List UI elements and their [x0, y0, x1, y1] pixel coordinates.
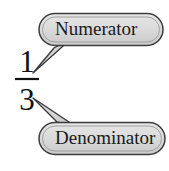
fraction: 1 3 — [15, 44, 39, 117]
fraction-denominator: 3 — [19, 82, 35, 117]
fraction-parts-diagram: Numerator Denominator 1 3 — [0, 0, 169, 171]
diagram-canvas: Numerator Denominator 1 3 — [0, 0, 169, 171]
denominator-callout-label: Denominator — [55, 127, 156, 148]
numerator-callout-label: Numerator — [55, 18, 138, 39]
fraction-numerator: 1 — [19, 44, 35, 79]
